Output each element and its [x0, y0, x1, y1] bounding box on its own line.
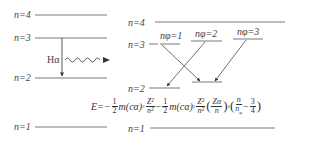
photon-arrowhead-icon [103, 57, 110, 63]
frac-z2-n2-1: Z²n² [146, 98, 155, 115]
transition-nphi1-arrow [162, 45, 200, 81]
level-label-n1-right: n=1 [128, 124, 145, 134]
formula-lhs: E=− [91, 101, 111, 112]
level-label-n4-left: n=4 [14, 10, 31, 20]
energy-level-diagram [0, 0, 320, 146]
sublabel-nphi3: nφ=3 [237, 27, 259, 37]
level-label-n3-left: n=3 [14, 33, 31, 43]
level-label-n3-right: n=3 [128, 40, 145, 50]
frac-three-quarters: 34 [250, 98, 256, 115]
frac-half-1: 12 [112, 98, 118, 115]
frac-z2-n2-2: Z²n² [196, 98, 205, 115]
transition-nphi3-arrow [215, 40, 246, 81]
sublabel-nphi2: nφ=2 [195, 29, 217, 39]
frac-za-n: Zαn [211, 98, 222, 115]
level-label-n2-left: n=2 [14, 73, 31, 83]
sublabel-nphi1: nφ=1 [160, 31, 182, 41]
level-label-n2-right: n=2 [128, 84, 145, 94]
formula-mc-2: m(cα) [169, 101, 193, 112]
h-alpha-label: Hα [47, 55, 59, 65]
energy-formula: E=− 12 m(cα)2 Z²n² − 12 m(cα)2 Z²n² (Zαn… [91, 94, 261, 118]
transition-nphi2-arrow [167, 42, 205, 86]
frac-half-2: 12 [162, 98, 168, 115]
level-label-n4-right: n=4 [128, 18, 145, 28]
photon-wave-icon [65, 58, 100, 62]
level-label-n1-left: n=1 [14, 122, 31, 132]
formula-minus: − [156, 101, 162, 112]
frac-n-nphi: nnφ [235, 96, 242, 117]
formula-mc-1: m(cα) [119, 101, 143, 112]
